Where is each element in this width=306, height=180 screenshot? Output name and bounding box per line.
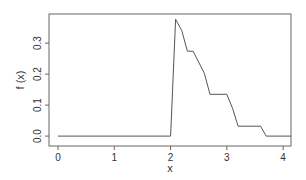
x-tick-label: 1 bbox=[112, 152, 118, 163]
y-axis: 0.00.10.20.3 bbox=[32, 36, 49, 143]
y-tick-label: 0.1 bbox=[32, 98, 43, 112]
data-series bbox=[58, 19, 291, 136]
y-tick-label: 0.3 bbox=[32, 36, 43, 50]
x-tick-label: 3 bbox=[224, 152, 230, 163]
x-axis-label: x bbox=[167, 162, 173, 174]
x-tick-label: 4 bbox=[280, 152, 286, 163]
x-axis: 01234 bbox=[55, 146, 286, 163]
x-tick-label: 0 bbox=[55, 152, 61, 163]
series-line bbox=[58, 19, 291, 136]
chart: 01234 0.00.10.20.3 x f (x) bbox=[0, 0, 306, 180]
y-axis-label: f (x) bbox=[14, 71, 26, 90]
y-tick-label: 0.2 bbox=[32, 67, 43, 81]
y-tick-label: 0.0 bbox=[32, 129, 43, 143]
